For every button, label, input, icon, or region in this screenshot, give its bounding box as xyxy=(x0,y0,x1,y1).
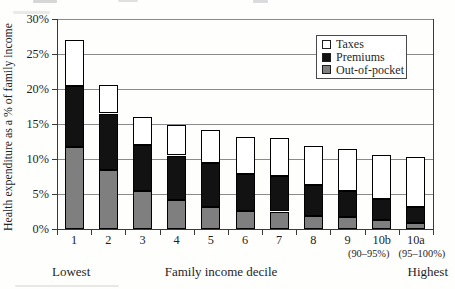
bar-segment-premiums xyxy=(201,163,220,206)
bar-segment-taxes xyxy=(406,157,425,207)
bar-segment-out-of-pocket xyxy=(201,207,220,229)
x-axis-annotation-lowest: Lowest xyxy=(52,264,90,280)
bar-segment-taxes xyxy=(65,40,84,86)
x-category-sublabel: (95–100%) xyxy=(388,248,455,260)
y-axis-line xyxy=(57,19,58,229)
bar-segment-out-of-pocket xyxy=(236,211,255,229)
bar-segment-premiums xyxy=(99,114,118,171)
bar-segment-premiums xyxy=(65,86,84,147)
legend-item-taxes: Taxes xyxy=(322,38,406,51)
bar-segment-taxes xyxy=(304,146,323,185)
bar-segment-premiums xyxy=(406,207,425,223)
y-tick-label: 15% xyxy=(11,117,49,131)
bar-segment-premiums xyxy=(372,199,391,220)
bar-segment-premiums xyxy=(304,185,323,216)
legend-label: Taxes xyxy=(336,38,364,50)
bar-segment-premiums xyxy=(338,191,357,217)
y-tick-label: 30% xyxy=(11,12,49,26)
bar-segment-premiums xyxy=(270,176,289,212)
y-tick-label: 5% xyxy=(11,187,49,201)
y-tick-label: 10% xyxy=(11,152,49,166)
y-tick-label: 0% xyxy=(11,222,49,236)
legend: TaxesPremiumsOut-of-pocket xyxy=(316,35,407,79)
plot-right-border xyxy=(433,19,434,230)
bar-segment-out-of-pocket xyxy=(338,217,357,229)
bar-segment-taxes xyxy=(99,85,118,114)
x-category-label: 10a xyxy=(396,234,436,247)
bar-segment-out-of-pocket xyxy=(133,191,152,229)
x-axis-line xyxy=(57,229,433,230)
bar-segment-premiums xyxy=(167,156,186,200)
bar-segment-out-of-pocket xyxy=(65,147,84,229)
legend-label: Premiums xyxy=(336,51,385,63)
legend-item-premiums: Premiums xyxy=(322,51,406,64)
bar-segment-out-of-pocket xyxy=(99,170,118,229)
bar-segment-out-of-pocket xyxy=(270,212,289,230)
bar-segment-taxes xyxy=(201,130,220,164)
bar-segment-out-of-pocket xyxy=(304,216,323,229)
bar-segment-out-of-pocket xyxy=(167,200,186,229)
bar-segment-premiums xyxy=(236,174,255,211)
figure: Health expenditure as a % of family inco… xyxy=(0,0,455,289)
y-tick-label: 20% xyxy=(11,82,49,96)
bar-segment-taxes xyxy=(236,137,255,173)
y-tick-label: 25% xyxy=(11,47,49,61)
legend-label: Out-of-pocket xyxy=(336,64,404,76)
bar-segment-out-of-pocket xyxy=(406,223,425,229)
bar-segment-taxes xyxy=(338,149,357,191)
gridline xyxy=(57,19,433,20)
bar-segment-taxes xyxy=(133,117,152,145)
bar-segment-taxes xyxy=(270,138,289,176)
out-of-pocket-swatch-icon xyxy=(322,65,331,74)
x-axis-annotation-highest: Highest xyxy=(408,264,448,280)
bar-segment-taxes xyxy=(167,125,186,156)
bar-segment-premiums xyxy=(133,145,152,191)
bar-segment-taxes xyxy=(372,155,391,199)
legend-item-out-of-pocket: Out-of-pocket xyxy=(322,63,406,76)
premiums-swatch-icon xyxy=(322,53,331,62)
bar-segment-out-of-pocket xyxy=(372,220,391,229)
taxes-swatch-icon xyxy=(322,40,331,49)
x-axis-title: Family income decile xyxy=(141,264,301,280)
